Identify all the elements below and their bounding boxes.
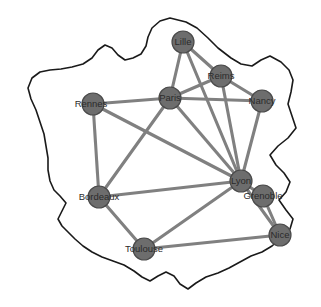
graph-node-label-lille: Lille bbox=[175, 36, 192, 47]
graph-node-label-toulouse: Toulouse bbox=[125, 243, 163, 254]
graph-node-label-rennes: Rennes bbox=[75, 98, 108, 109]
graph-node-label-grenoble: Grenoble bbox=[243, 190, 282, 201]
france-graph-figure: LilleReimsParisNancyRennesLyonGrenobleBo… bbox=[0, 0, 321, 307]
graph-node-label-paris: Paris bbox=[159, 92, 181, 103]
graph-node-label-nancy: Nancy bbox=[249, 95, 276, 106]
graph-node-label-lyon: Lyon bbox=[231, 175, 251, 186]
figure-canvas: LilleReimsParisNancyRennesLyonGrenobleBo… bbox=[0, 0, 321, 307]
graph-node-label-bordeaux: Bordeaux bbox=[79, 191, 120, 202]
graph-node-label-nice: Nice bbox=[270, 229, 289, 240]
graph-node-label-reims: Reims bbox=[208, 70, 235, 81]
